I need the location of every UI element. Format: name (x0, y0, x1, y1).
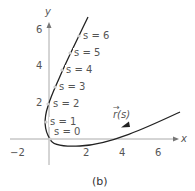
x-axis-arrow-icon (173, 137, 179, 142)
label-s0: s = 0 (53, 127, 81, 137)
y-tick-2: 2 (36, 98, 42, 108)
y-axis-label: y (45, 7, 51, 17)
label-s1: s = 1 (49, 117, 77, 127)
vector-arrow-icon: → (113, 104, 120, 112)
label-s4: s = 4 (65, 65, 93, 75)
x-tick-4: 4 (119, 148, 125, 158)
label-s3: s = 3 (58, 82, 86, 92)
label-s5: s = 5 (73, 48, 101, 58)
direction-arrow-icon (121, 122, 130, 128)
figure-caption: (b) (92, 175, 108, 188)
x-tick-2: 2 (83, 148, 89, 158)
curve-label: → r(s) (113, 110, 130, 120)
y-tick-6: 6 (36, 25, 42, 35)
label-s2: s = 2 (52, 99, 80, 109)
x-axis-label: x (181, 134, 187, 144)
x-tick-minus2: −2 (10, 148, 25, 158)
chart-canvas (0, 0, 195, 191)
x-tick-6: 6 (155, 148, 161, 158)
y-axis-arrow-icon (47, 22, 52, 28)
y-tick-4: 4 (36, 61, 42, 71)
label-s6: s = 6 (82, 31, 110, 41)
